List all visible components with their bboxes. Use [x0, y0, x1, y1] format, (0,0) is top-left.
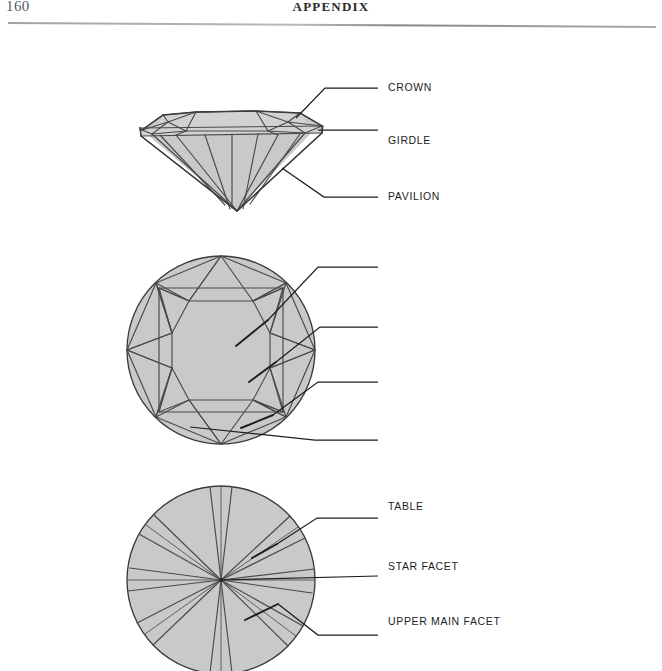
label-pavilion: PAVILION: [388, 191, 440, 202]
figure-diamond-profile-view: CROWN GIRDLE PAVILION: [0, 0, 662, 230]
figure-diamond-crown-view: TABLE STAR FACET UPPER MAIN FACET UPPER …: [0, 240, 662, 465]
label-girdle: GIRDLE: [388, 135, 431, 146]
leader-crown: [296, 88, 378, 118]
label-crown: CROWN: [388, 82, 432, 93]
diamond-profile-illustration: [0, 0, 662, 230]
diamond-pavilion-illustration: [0, 480, 662, 671]
leader-pavilion: [282, 168, 378, 197]
figure-diamond-pavilion-view: LOWER MAIN FACET CULET LOWER GIRDLE FACE…: [0, 480, 662, 671]
diamond-crown-illustration: [0, 240, 662, 465]
